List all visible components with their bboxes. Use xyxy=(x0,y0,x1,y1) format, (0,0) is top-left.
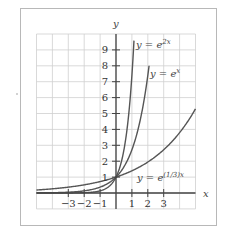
x-tick-label: 2 xyxy=(145,198,151,209)
curve-label: y = ex xyxy=(149,67,180,79)
x-tick-label: −2 xyxy=(77,198,92,209)
y-tick-label: 6 xyxy=(102,92,108,103)
curve-label: y = e2x xyxy=(135,38,171,50)
y-tick-label: 1 xyxy=(102,172,108,183)
y-tick-label: 9 xyxy=(102,44,108,55)
y-tick-label: 7 xyxy=(102,76,108,87)
x-axis-label: x xyxy=(203,188,209,199)
curve-label: y = e(1/3)x xyxy=(136,171,184,183)
y-tick-label: 2 xyxy=(102,156,108,167)
y-tick-label: 5 xyxy=(102,108,108,119)
stray-dot xyxy=(16,93,18,95)
x-tick-label: −3 xyxy=(61,198,76,209)
y-axis-label: y xyxy=(112,18,119,29)
y-tick-label: 4 xyxy=(102,124,108,135)
y-tick-label: 3 xyxy=(102,140,108,151)
x-tick-label: 1 xyxy=(129,198,135,209)
x-tick-label: −1 xyxy=(93,198,108,209)
exponential-functions-chart: xy −3−2−1123123456789 y = e2xy = exy = e… xyxy=(0,0,226,236)
x-tick-label: 3 xyxy=(161,198,167,209)
y-tick-label: 8 xyxy=(102,60,108,71)
curve-2x xyxy=(37,41,134,193)
